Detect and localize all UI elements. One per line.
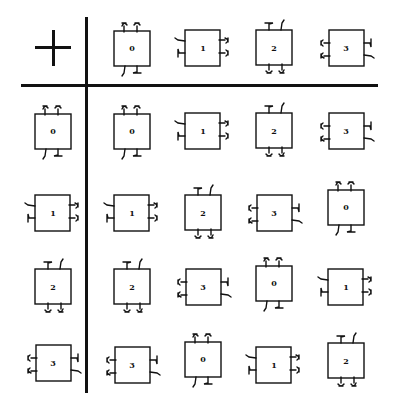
table-cell: 2 [97,252,167,322]
square-label: 2 [239,96,309,166]
square-label: 0 [311,172,381,242]
column-header-3: 3 [311,13,381,83]
square-label: 2 [18,252,88,322]
column-header-0: 0 [97,13,167,83]
horizontal-divider [21,84,378,87]
table-cell: 3 [97,330,167,400]
square-label: 2 [239,13,309,83]
table-cell: 1 [239,330,309,400]
table-cell: 3 [168,252,238,322]
table-cell: 0 [97,96,167,166]
square-label: 0 [97,13,167,83]
table-cell: 1 [311,252,381,322]
square-label: 1 [97,178,167,248]
square-label: 2 [97,252,167,322]
square-label: 2 [311,326,381,396]
square-label: 0 [18,96,88,166]
square-label: 3 [168,252,238,322]
table-cell: 0 [239,248,309,318]
square-label: 0 [239,248,309,318]
square-label: 3 [311,96,381,166]
table-cell: 3 [311,96,381,166]
column-header-1: 1 [168,13,238,83]
table-cell: 0 [311,172,381,242]
square-label: 3 [311,13,381,83]
plus-operator-icon [35,30,71,66]
table-cell: 3 [239,178,309,248]
square-label: 1 [18,178,88,248]
row-header-1: 1 [18,178,88,248]
row-header-2: 2 [18,252,88,322]
square-label: 1 [239,330,309,400]
square-label: 1 [168,96,238,166]
square-label: 1 [311,252,381,322]
column-header-2: 2 [239,13,309,83]
square-label: 3 [239,178,309,248]
table-cell: 2 [239,96,309,166]
table-cell: 1 [168,96,238,166]
row-header-0: 0 [18,96,88,166]
square-label: 3 [18,328,88,398]
square-label: 0 [168,324,238,394]
square-label: 0 [97,96,167,166]
square-label: 2 [168,178,238,248]
table-cell: 1 [97,178,167,248]
table-cell: 2 [168,178,238,248]
table-cell: 0 [168,324,238,394]
table-cell: 2 [311,326,381,396]
square-label: 1 [168,13,238,83]
square-label: 3 [97,330,167,400]
row-header-3: 3 [18,328,88,398]
